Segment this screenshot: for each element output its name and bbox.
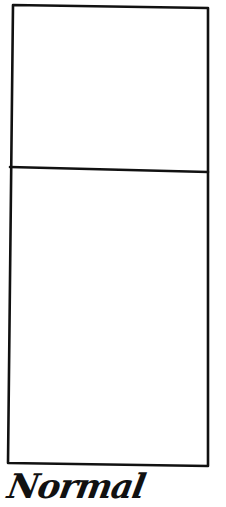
caption-label: Normal [4,466,148,506]
lower-compartment [11,173,206,463]
upper-compartment [14,9,206,166]
compartment-divider [10,167,208,172]
sketch-drawing [0,0,226,507]
outer-frame [8,5,208,466]
